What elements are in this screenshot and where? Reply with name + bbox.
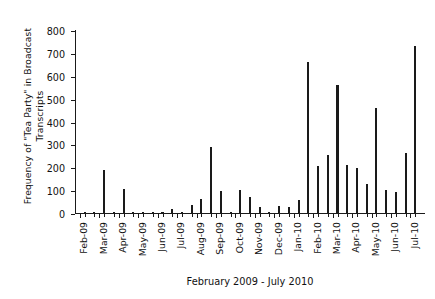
y-axis-tick-label: 700 <box>47 48 65 59</box>
bar <box>288 207 290 213</box>
y-axis-tick: 100 <box>71 191 75 192</box>
x-axis-minor-tick <box>415 214 416 217</box>
y-axis-tick: 700 <box>71 54 75 55</box>
x-axis-minor-tick <box>250 214 251 217</box>
x-axis-tick <box>216 214 217 218</box>
x-axis-minor-tick <box>318 214 319 217</box>
y-axis-tick-label: 100 <box>47 186 65 197</box>
bar <box>132 212 134 213</box>
x-axis-minor-tick <box>367 214 368 217</box>
y-axis-tick: 300 <box>71 145 75 146</box>
x-axis-minor-tick <box>338 214 339 217</box>
x-axis-tick-label: Oct-09 <box>233 222 244 253</box>
bar <box>317 166 319 213</box>
bar <box>171 209 173 213</box>
bar <box>230 212 232 213</box>
y-axis-tick-label: 400 <box>47 117 65 128</box>
bar <box>268 212 270 213</box>
x-axis-tick <box>410 214 411 218</box>
bar <box>375 108 377 213</box>
x-axis-minor-tick <box>299 214 300 217</box>
bar <box>336 85 338 213</box>
x-axis-tick-label: Aug-09 <box>194 222 205 255</box>
x-axis-minor-tick <box>172 214 173 217</box>
y-axis-tick: 200 <box>71 168 75 169</box>
y-axis-title: Frequency of "Tea Party" in Broadcast Tr… <box>22 16 46 216</box>
bar <box>307 62 309 213</box>
x-axis-minor-tick <box>396 214 397 217</box>
bar <box>161 212 163 213</box>
plot-area: 0100200300400500600700800 Feb-09Mar-09Ap… <box>75 30 425 214</box>
bar <box>84 212 86 213</box>
y-axis-tick: 400 <box>71 123 75 124</box>
x-axis-minor-tick <box>386 214 387 217</box>
x-axis-tick-label: Sep-09 <box>214 222 225 255</box>
bar <box>414 46 416 213</box>
x-axis-tick <box>197 214 198 218</box>
x-axis-tick <box>255 214 256 218</box>
bar <box>181 212 183 213</box>
bar <box>191 205 193 213</box>
x-axis-minor-tick <box>124 214 125 217</box>
x-axis-minor-tick <box>211 214 212 217</box>
bar <box>113 212 115 213</box>
y-axis-tick: 500 <box>71 100 75 101</box>
bar <box>259 207 261 213</box>
bar <box>200 199 202 213</box>
bar <box>405 153 407 213</box>
y-axis-tick-label: 600 <box>47 71 65 82</box>
x-axis-minor-tick <box>192 214 193 217</box>
bar <box>327 155 329 213</box>
x-axis-tick <box>80 214 81 218</box>
x-axis-tick-label: Jul-10 <box>408 222 419 248</box>
x-axis-minor-tick <box>182 214 183 217</box>
bar <box>152 212 154 213</box>
bar <box>385 190 387 213</box>
y-axis-tick-label: 0 <box>59 209 65 220</box>
x-axis-tick-label: Jan-10 <box>292 222 303 252</box>
bar <box>298 200 300 213</box>
bar <box>366 184 368 213</box>
x-axis-tick <box>138 214 139 218</box>
y-axis-tick-label: 200 <box>47 163 65 174</box>
x-axis-minor-tick <box>240 214 241 217</box>
y-axis-line <box>75 30 76 214</box>
x-axis-minor-tick <box>269 214 270 217</box>
x-axis-minor-tick <box>133 214 134 217</box>
y-axis-tick-label: 500 <box>47 94 65 105</box>
x-axis-minor-tick <box>153 214 154 217</box>
x-axis-minor-tick <box>406 214 407 217</box>
x-axis-minor-tick <box>279 214 280 217</box>
x-axis-tick-label: Jun-09 <box>156 222 167 252</box>
bar <box>220 191 222 213</box>
x-axis-tick-label: Apr-10 <box>350 222 361 253</box>
bar <box>346 165 348 213</box>
x-axis-minor-tick <box>143 214 144 217</box>
x-axis-minor-tick <box>231 214 232 217</box>
x-axis-tick <box>352 214 353 218</box>
x-axis-tick-label: Dec-09 <box>272 222 283 255</box>
x-axis-tick <box>158 214 159 218</box>
x-axis-minor-tick <box>94 214 95 217</box>
chart-container: Frequency of "Tea Party" in Broadcast Tr… <box>0 0 435 299</box>
x-axis-minor-tick <box>289 214 290 217</box>
bar <box>249 197 251 213</box>
x-axis-tick <box>333 214 334 218</box>
x-axis-tick <box>119 214 120 218</box>
x-axis-tick <box>274 214 275 218</box>
x-axis-minor-tick <box>85 214 86 217</box>
bar <box>239 190 241 213</box>
x-axis-tick <box>177 214 178 218</box>
bar <box>93 212 95 213</box>
bar <box>278 206 280 213</box>
x-axis-tick <box>294 214 295 218</box>
x-axis-tick <box>235 214 236 218</box>
bar <box>103 170 105 213</box>
x-axis-tick-label: Mar-10 <box>331 222 342 254</box>
x-axis-tick <box>391 214 392 218</box>
x-axis-minor-tick <box>201 214 202 217</box>
x-axis-tick-label: May-09 <box>136 222 147 256</box>
x-axis-tick-label: May-10 <box>369 222 380 256</box>
x-axis-tick <box>372 214 373 218</box>
x-axis-minor-tick <box>347 214 348 217</box>
